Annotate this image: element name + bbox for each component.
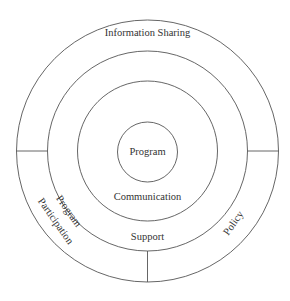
label-communication: Communication bbox=[114, 191, 182, 202]
concentric-diagram: Information Sharing Program Communicatio… bbox=[0, 0, 290, 301]
label-policy: Policy bbox=[221, 208, 246, 237]
label-program: Program bbox=[129, 146, 165, 157]
label-information-sharing: Information Sharing bbox=[105, 27, 191, 38]
label-support: Support bbox=[131, 231, 164, 242]
